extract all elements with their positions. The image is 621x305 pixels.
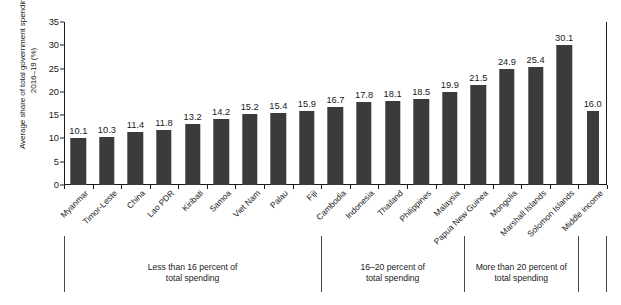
bar-value-label: 17.8 [355, 90, 373, 100]
group-caption-line: More than 20 percent of [464, 262, 578, 273]
bar-slot: 13.2 [178, 22, 207, 185]
bar-value-label: 10.1 [69, 126, 87, 136]
group-caption: More than 20 percent oftotal spending [464, 262, 578, 284]
bar-value-label: 19.9 [441, 80, 459, 90]
bar-slot: 14.2 [207, 22, 236, 185]
bar-value-label: 15.4 [269, 101, 287, 111]
group-caption-line: Less than 16 percent of [64, 262, 321, 273]
bar-slot: 10.1 [64, 22, 93, 185]
bar-value-label: 10.3 [98, 125, 116, 135]
bar-slot: 25.4 [521, 22, 550, 185]
bar-slot: 15.2 [235, 22, 264, 185]
bar[interactable] [71, 138, 86, 185]
bar-slot: 21.5 [464, 22, 493, 185]
group-caption-line: total spending [64, 273, 321, 284]
group-caption-line: total spending [321, 273, 464, 284]
bar[interactable] [328, 107, 343, 185]
y-axis-title: Average share of total government spendi… [18, 0, 39, 161]
bar-slot: 17.8 [350, 22, 379, 185]
group-caption: Less than 16 percent oftotal spending [64, 262, 321, 284]
bar-value-label: 14.2 [212, 107, 230, 117]
bar-slot: 19.9 [436, 22, 465, 185]
group-brackets: Less than 16 percent oftotal spending16–… [64, 236, 607, 300]
bar-value-label: 15.9 [298, 99, 316, 109]
bar-slot: 18.5 [407, 22, 436, 185]
group-separator [578, 236, 579, 292]
group-caption-line: total spending [464, 273, 578, 284]
bar-slot: 11.8 [150, 22, 179, 185]
bar-value-label: 13.2 [184, 112, 202, 122]
bar-value-label: 16.0 [584, 99, 602, 109]
bar-value-label: 15.2 [241, 102, 259, 112]
bar-slot: 18.1 [378, 22, 407, 185]
bar-value-label: 24.9 [498, 57, 516, 67]
bar-slot: 10.3 [93, 22, 122, 185]
bar-value-label: 25.4 [526, 55, 544, 65]
bar-value-label: 30.1 [555, 33, 573, 43]
bar-chart-figure: Average share of total government spendi… [0, 0, 621, 305]
bar[interactable] [299, 111, 314, 185]
group-separator [606, 236, 607, 292]
group-caption-line: 16–20 percent of [321, 262, 464, 273]
bar-slot: 16.7 [321, 22, 350, 185]
bar-value-label: 18.5 [412, 87, 430, 97]
bar-slot: 15.4 [264, 22, 293, 185]
bar-value-label: 11.8 [155, 118, 172, 128]
bar-value-label: 16.7 [326, 95, 344, 105]
bar-value-label: 18.1 [384, 89, 402, 99]
bar-value-label: 21.5 [469, 73, 487, 83]
group-caption: 16–20 percent oftotal spending [321, 262, 464, 284]
bar-slot: 15.9 [293, 22, 322, 185]
bar-value-label: 11.4 [127, 120, 144, 130]
